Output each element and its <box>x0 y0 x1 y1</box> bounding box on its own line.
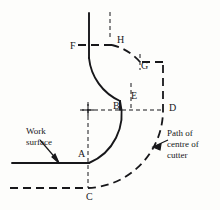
cutter-path-annotation-line2: centre of <box>167 139 199 150</box>
point-label-g: G <box>141 61 148 71</box>
cutter-path-diagram: A B C D E F G H Work surface Path of cen… <box>0 0 220 210</box>
point-label-e: E <box>131 91 137 101</box>
point-label-a: A <box>78 149 85 159</box>
leader-arrows <box>40 140 168 163</box>
work-surface-annotation-line1: Work <box>26 126 52 137</box>
point-label-b: B <box>113 101 120 111</box>
work-surface-annotation-line2: surface <box>26 137 52 148</box>
cutter-path-annotation-line3: cutter <box>167 150 199 161</box>
cutter-path-arc-cd <box>88 112 163 188</box>
centre-cross-icon <box>82 104 94 116</box>
cutter-path-annotation-line1: Path of <box>167 128 199 139</box>
work-surface-arrowhead-icon <box>52 154 59 163</box>
diagram-canvas <box>0 0 220 210</box>
cutter-path-annotation: Path of centre of cutter <box>167 128 199 161</box>
point-label-f: F <box>70 41 76 51</box>
work-surface-annotation: Work surface <box>26 126 52 148</box>
point-label-c: C <box>86 192 93 202</box>
point-label-d: D <box>169 103 176 113</box>
point-label-h: H <box>117 35 124 45</box>
work-surface-arc-fe <box>89 58 120 101</box>
cutter-path-arc-gh <box>112 45 140 62</box>
